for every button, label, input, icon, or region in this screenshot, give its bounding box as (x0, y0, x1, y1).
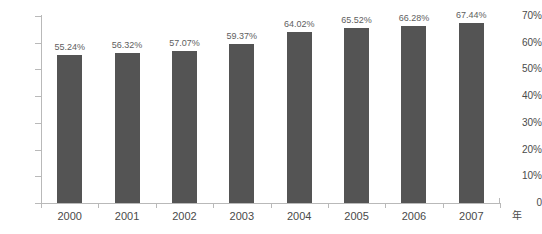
bar (401, 26, 426, 203)
x-axis-title: 年 (512, 210, 522, 222)
bar (57, 55, 82, 203)
y-axis-tick-label: 50% (512, 64, 542, 74)
x-axis-tick (213, 203, 214, 208)
x-axis-tick (500, 203, 501, 208)
bar (115, 53, 140, 203)
bar (287, 32, 312, 203)
x-axis-tick (98, 203, 99, 208)
bar (229, 44, 254, 203)
x-axis-tick (328, 203, 329, 208)
bar-value-label: 57.07% (154, 39, 214, 48)
x-axis-category-label: 2006 (384, 210, 444, 222)
x-axis-tick (41, 203, 42, 208)
y-axis-tick-label: 70% (512, 11, 542, 21)
y-axis-tick (35, 176, 41, 177)
bar-value-label: 66.28% (384, 14, 444, 23)
y-axis-tick-label: 30% (512, 118, 542, 128)
y-axis-tick-label: 0 (512, 198, 542, 208)
bar (172, 51, 197, 203)
x-axis-category-label: 2007 (441, 210, 501, 222)
x-axis-category-label: 2001 (97, 210, 157, 222)
x-axis-category-label: 2002 (154, 210, 214, 222)
x-axis-category-label: 2004 (269, 210, 329, 222)
bar (459, 23, 484, 203)
bar (344, 28, 369, 203)
bar-value-label: 56.32% (97, 41, 157, 50)
y-axis-tick (35, 96, 41, 97)
y-axis-tick-label: 10% (512, 171, 542, 181)
bar-value-label: 65.52% (327, 16, 387, 25)
bar-chart: 70%60%50%40%30%20%10%0 55.24%56.32%57.07… (0, 0, 542, 234)
x-axis-tick (271, 203, 272, 208)
x-axis-tick (443, 203, 444, 208)
x-axis-category-label: 2003 (212, 210, 272, 222)
x-axis-tick (156, 203, 157, 208)
y-axis-tick (35, 69, 41, 70)
bar-value-label: 55.24% (40, 43, 100, 52)
x-axis-category-label: 2005 (327, 210, 387, 222)
x-axis-category-label: 2000 (40, 210, 100, 222)
y-axis-tick-label: 20% (512, 145, 542, 155)
y-axis-tick (35, 16, 41, 17)
bar-value-label: 59.37% (212, 32, 272, 41)
y-axis-tick (35, 150, 41, 151)
x-axis-tick (385, 203, 386, 208)
y-axis-tick-label: 40% (512, 91, 542, 101)
y-axis-tick-label: 60% (512, 38, 542, 48)
y-axis-tick (35, 123, 41, 124)
bar-value-label: 67.44% (441, 11, 501, 20)
bar-value-label: 64.02% (269, 20, 329, 29)
